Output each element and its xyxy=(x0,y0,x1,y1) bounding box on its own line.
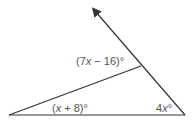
exterior-angle-label: (7x − 16)° xyxy=(76,55,124,67)
triangle-diagram: (7x − 16)° (x + 8)° 4x° xyxy=(0,0,194,124)
right-angle-label: 4x° xyxy=(156,102,172,114)
left-angle-label: (x + 8)° xyxy=(52,102,88,114)
